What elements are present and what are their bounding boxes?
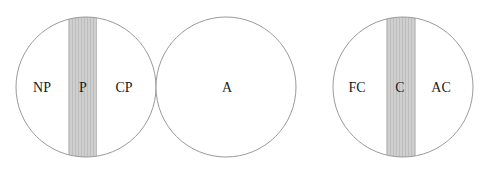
diagram: NP P CP A FC C AC: [0, 0, 484, 175]
circle-right: FC C AC: [333, 10, 473, 170]
label-ac: AC: [431, 80, 450, 95]
circle-left: NP P CP: [16, 10, 156, 170]
circle-middle: A: [156, 17, 296, 157]
label-np: NP: [33, 80, 51, 95]
label-cp: CP: [115, 80, 132, 95]
diagram-canvas: NP P CP A FC C AC: [0, 0, 484, 175]
label-c: C: [395, 80, 404, 95]
label-p: P: [79, 80, 87, 95]
label-a: A: [222, 80, 233, 95]
label-fc: FC: [348, 80, 365, 95]
